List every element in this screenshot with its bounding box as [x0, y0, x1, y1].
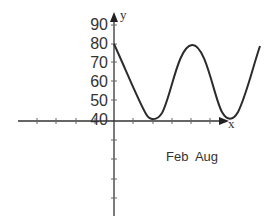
x-axis-label: x — [228, 116, 235, 132]
y-tick-label-90: 90 — [78, 17, 108, 33]
chart-canvas — [0, 0, 271, 224]
y-tick-label-60: 60 — [78, 74, 108, 90]
y-tick-label-40: 40 — [78, 112, 108, 128]
y-tick-label-80: 80 — [78, 36, 108, 52]
y-axis-label: y — [120, 7, 127, 23]
month-annotation: Feb Aug — [166, 149, 218, 164]
y-tick-label-50: 50 — [78, 93, 108, 109]
y-axis-arrow-icon — [110, 12, 118, 22]
sinusoid-curve — [114, 44, 260, 119]
y-tick-label-70: 70 — [78, 55, 108, 71]
